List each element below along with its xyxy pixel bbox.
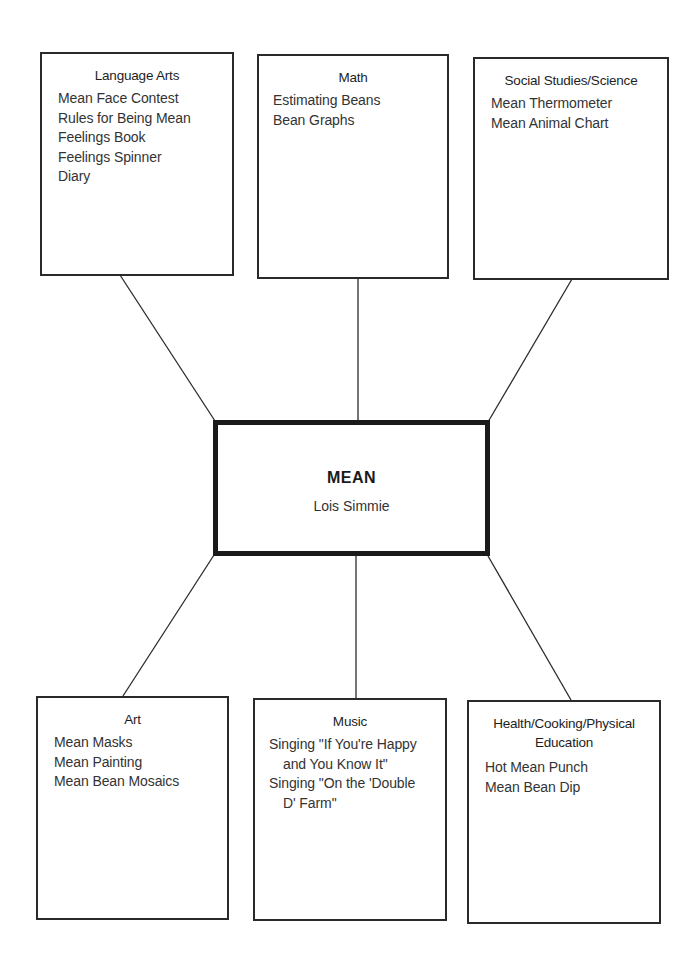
- list-item: Singing "On the 'Double D' Farm": [269, 774, 445, 813]
- social-studies-science-title: Social Studies/Science: [475, 71, 667, 90]
- math-box: Math Estimating Beans Bean Graphs: [257, 54, 449, 279]
- list-item: Mean Painting: [54, 753, 227, 773]
- social-studies-science-box: Social Studies/Science Mean Thermometer …: [473, 57, 669, 280]
- art-title: Art: [38, 710, 227, 729]
- art-box: Art Mean Masks Mean Painting Mean Bean M…: [36, 696, 229, 920]
- math-title: Math: [259, 68, 447, 87]
- music-title: Music: [255, 712, 445, 731]
- list-item: Mean Face Contest: [58, 89, 232, 109]
- connector-art: [123, 555, 214, 696]
- connector-language-arts: [120, 275, 215, 421]
- list-item-line: Singing "If You're Happy: [269, 736, 417, 752]
- list-item-continuation: D' Farm": [269, 794, 445, 814]
- list-item: Mean Bean Dip: [485, 778, 659, 798]
- central-topic-box: MEAN Lois Simmie: [213, 420, 490, 556]
- social-studies-science-list: Mean Thermometer Mean Animal Chart: [475, 94, 667, 133]
- list-item: Singing "If You're Happy and You Know It…: [269, 735, 445, 774]
- central-topic-title: MEAN: [218, 469, 485, 487]
- health-cooking-pe-box: Health/Cooking/Physical Education Hot Me…: [467, 700, 661, 924]
- language-arts-box: Language Arts Mean Face Contest Rules fo…: [40, 52, 234, 276]
- list-item: Rules for Being Mean: [58, 109, 232, 129]
- list-item: Diary: [58, 167, 232, 187]
- music-box: Music Singing "If You're Happy and You K…: [253, 698, 447, 921]
- language-arts-list: Mean Face Contest Rules for Being Mean F…: [42, 89, 232, 187]
- list-item-line: Singing "On the 'Double: [269, 775, 415, 791]
- connector-health: [488, 556, 571, 700]
- music-list: Singing "If You're Happy and You Know It…: [255, 735, 445, 813]
- list-item-continuation: and You Know It": [269, 755, 445, 775]
- list-item: Estimating Beans: [273, 91, 447, 111]
- list-item: Bean Graphs: [273, 111, 447, 131]
- list-item: Mean Bean Mosaics: [54, 772, 227, 792]
- art-list: Mean Masks Mean Painting Mean Bean Mosai…: [38, 733, 227, 792]
- connector-social-studies: [488, 279, 572, 422]
- math-list: Estimating Beans Bean Graphs: [259, 91, 447, 130]
- title-line-1: Health/Cooking/Physical: [493, 716, 635, 731]
- language-arts-title: Language Arts: [42, 66, 232, 85]
- central-topic-author: Lois Simmie: [218, 498, 485, 514]
- health-cooking-pe-title: Health/Cooking/Physical Education: [469, 714, 659, 752]
- health-cooking-pe-list: Hot Mean Punch Mean Bean Dip: [469, 758, 659, 797]
- list-item: Feelings Spinner: [58, 148, 232, 168]
- list-item: Feelings Book: [58, 128, 232, 148]
- list-item: Mean Animal Chart: [491, 114, 667, 134]
- list-item: Mean Thermometer: [491, 94, 667, 114]
- list-item: Mean Masks: [54, 733, 227, 753]
- title-line-2: Education: [535, 735, 593, 750]
- list-item: Hot Mean Punch: [485, 758, 659, 778]
